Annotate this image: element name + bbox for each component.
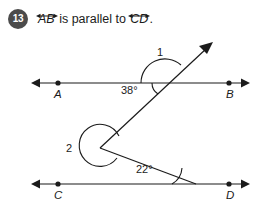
point-a-label: A <box>54 88 62 100</box>
point-b-label: B <box>226 88 234 100</box>
geometry-figure: A B C D 1 38° 2 22° <box>0 0 265 210</box>
point-d-label: D <box>226 189 234 201</box>
point-d-dot <box>226 181 231 186</box>
upper-ray-arrowhead <box>199 42 213 54</box>
angle-1-label: 1 <box>157 46 163 58</box>
angle-1-arc <box>141 59 181 83</box>
point-c-label: C <box>54 189 62 201</box>
figure-canvas <box>0 0 265 210</box>
line-cd-left-arrowhead <box>31 180 40 189</box>
line-cd-right-arrowhead <box>241 180 250 189</box>
line-ab-left-arrowhead <box>31 79 40 88</box>
angle-38-label: 38° <box>121 84 138 96</box>
point-c-dot <box>55 181 60 186</box>
worksheet-page: 13 AB is parallel to <box>0 0 265 210</box>
line-ab-right-arrowhead <box>241 79 250 88</box>
point-a-dot <box>55 80 60 85</box>
angle-2-reflex-arc <box>79 124 119 166</box>
angle-38-arc <box>152 83 158 94</box>
line-cd-graphic <box>31 180 250 189</box>
angle-2-label: 2 <box>66 142 72 154</box>
point-b-dot <box>226 80 231 85</box>
angle-22-label: 22° <box>136 163 153 175</box>
